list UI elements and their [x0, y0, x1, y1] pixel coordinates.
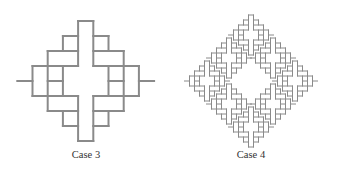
case-4-pattern [185, 15, 318, 147]
case-3-label: Case 3 [46, 149, 126, 160]
case-4-label: Case 4 [211, 149, 291, 160]
fractal-figure [0, 0, 337, 170]
case-3-pattern [17, 21, 154, 141]
